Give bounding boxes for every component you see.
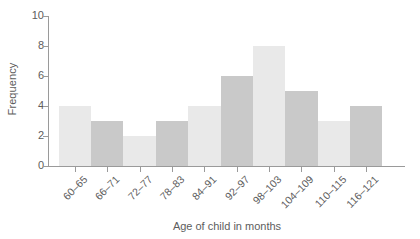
- y-axis-tick-mark: [43, 166, 48, 167]
- y-axis-tick-label: 6: [26, 70, 44, 81]
- x-axis-tick-mark: [269, 167, 270, 172]
- y-axis-tick-label: 4: [26, 100, 44, 111]
- x-axis-tick-mark: [172, 167, 173, 172]
- y-axis-tick-mark: [43, 106, 48, 107]
- bar: [350, 106, 382, 166]
- y-axis-tick-label: 8: [26, 40, 44, 51]
- y-axis-tick-label: 10: [26, 10, 44, 21]
- bar: [318, 121, 350, 166]
- x-axis-tick-mark: [366, 167, 367, 172]
- x-axis-tick-mark: [204, 167, 205, 172]
- y-axis-tick-mark: [43, 16, 48, 17]
- bar: [188, 106, 220, 166]
- y-axis-tick-label: 0: [26, 160, 44, 171]
- y-axis-tick-mark: [43, 46, 48, 47]
- bar: [91, 121, 123, 166]
- x-axis-tick-mark: [334, 167, 335, 172]
- y-axis-tick-mark: [43, 76, 48, 77]
- x-axis-tick-mark: [237, 167, 238, 172]
- plot-area: [49, 16, 405, 166]
- x-axis-line: [48, 166, 405, 167]
- bar: [123, 136, 155, 166]
- y-axis-tick-mark: [43, 136, 48, 137]
- x-axis-tick-mark: [140, 167, 141, 172]
- x-axis-tick-mark: [107, 167, 108, 172]
- x-axis-tick-mark: [301, 167, 302, 172]
- bar: [285, 91, 317, 166]
- bar: [253, 46, 285, 166]
- histogram-chart: Frequency 0246810 Age of child in months…: [0, 0, 420, 239]
- x-axis-tick-mark: [75, 167, 76, 172]
- bar: [221, 76, 253, 166]
- y-axis-tick-label: 2: [26, 130, 44, 141]
- bar: [59, 106, 91, 166]
- y-axis-tick-labels: 0246810: [22, 0, 44, 239]
- bar: [156, 121, 188, 166]
